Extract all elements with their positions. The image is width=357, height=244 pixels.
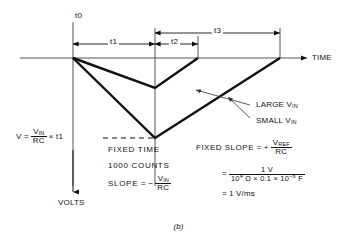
result-equation-lead: = [222, 190, 227, 198]
slope-equation-lead: SLOPE = [108, 180, 146, 188]
figure-caption: (b) [0, 222, 357, 231]
fixed-time-line2: 1000 COUNTS [108, 162, 170, 170]
legend-small-vin-subscript: IN [291, 119, 297, 125]
slope-equation-sign: − [148, 180, 153, 188]
left-equation-tail: × t1 [49, 133, 63, 141]
left-equation-fraction: VIN RC [31, 128, 47, 146]
legend-item-large-vin: LARGE VIN [256, 101, 298, 109]
numeric-equation-lead: = [222, 170, 227, 178]
slope-equation-fraction: VIN RC [155, 175, 171, 193]
left-voltage-equation: V = VIN RC × t1 [16, 128, 63, 146]
interval-label-t3: t3 [212, 27, 223, 35]
figure-container: t0 t1 t2 t3 TIME VOLTS LARGE VIN SMALL V… [0, 0, 357, 244]
leader-line-small-vin [228, 97, 250, 118]
legend-item-small-vin: SMALL VIN [256, 117, 297, 125]
slope-equation-denominator: RC [155, 184, 171, 192]
waveform-diagram [0, 0, 357, 244]
interval-label-t2: t2 [169, 38, 180, 46]
t0-label: t0 [75, 12, 82, 20]
result-equation-value: 1 V/ms [229, 190, 255, 198]
fixed-slope-sign: + [264, 144, 269, 152]
slope-equation: SLOPE = − VIN RC [108, 175, 171, 193]
legend-large-vin-subscript: IN [292, 103, 298, 109]
waveform-small-vin [73, 58, 198, 88]
numeric-equation-fraction: 1 V 104 Ω × 0.1 × 10−6 F [229, 166, 305, 183]
left-equation-lead: V = [16, 133, 29, 141]
numeric-equation-denominator: 104 Ω × 0.1 × 10−6 F [229, 175, 305, 183]
fixed-slope-numeric-equation: = 1 V 104 Ω × 0.1 × 10−6 F [222, 166, 305, 183]
time-axis-label: TIME [312, 54, 332, 62]
leader-line-large-vin [196, 90, 250, 105]
fixed-slope-numerator: VREF [271, 139, 292, 148]
volts-axis-label: VOLTS [58, 199, 85, 207]
fixed-time-line1: FIXED TIME [108, 146, 160, 154]
fixed-slope-fraction: VREF RC [271, 139, 292, 157]
interval-label-t1: t1 [108, 38, 119, 46]
fixed-slope-lead: FIXED SLOPE = [196, 144, 262, 152]
legend-large-vin-text: LARGE V [256, 100, 292, 109]
left-equation-denominator: RC [31, 137, 47, 145]
legend-small-vin-text: SMALL V [256, 116, 291, 125]
fixed-slope-equation: FIXED SLOPE = + VREF RC [196, 139, 292, 157]
fixed-slope-denominator: RC [271, 148, 292, 156]
fixed-slope-result-equation: = 1 V/ms [222, 190, 255, 198]
